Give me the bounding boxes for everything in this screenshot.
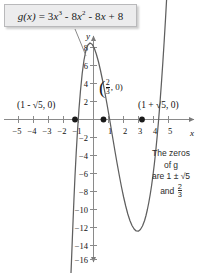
open-paren: ( (99, 81, 105, 94)
svg-text:−8: −8 (79, 187, 88, 197)
fraction-two-thirds: 2 3 (106, 79, 110, 97)
svg-text:−12: −12 (75, 223, 88, 233)
zero-label-left: (1 - √5, 0) (17, 100, 55, 110)
svg-text:−10: −10 (75, 205, 88, 215)
svg-text:2: 2 (84, 97, 88, 107)
svg-text:5: 5 (168, 126, 172, 136)
x-tick-labels: −5 −4 −3 −2 −1 1 2 3 4 5 (12, 126, 172, 136)
svg-text:−16: −16 (75, 255, 88, 265)
svg-text:−4: −4 (79, 151, 89, 161)
svg-text:4: 4 (84, 79, 89, 89)
coordinate-plane: −5 −4 −3 −2 −1 1 2 3 4 5 8 6 4 2 −2 −4 −… (0, 0, 203, 273)
equation-text: g(x) = 3x3 - 8x2 - 8x + 8 (18, 10, 124, 22)
caption-line-3: are 1 ± √5 (140, 171, 202, 183)
zero-label-middle: ( 2 3 , 0) (99, 79, 123, 97)
root-dot-right (139, 117, 145, 123)
svg-text:−4: −4 (27, 126, 37, 136)
svg-text:−6: −6 (79, 169, 88, 179)
zero-label-right: (1 + √5, 0) (138, 100, 179, 110)
caption-fraction-denominator: 3 (178, 190, 182, 199)
zero-label-middle-tail: , 0) (111, 83, 123, 92)
root-dot-middle (101, 117, 107, 123)
caption-line-4: and 2 3 (140, 183, 202, 200)
caption-line-4-prefix: and (160, 185, 174, 195)
equation-callout: g(x) = 3x3 - 8x2 - 8x + 8 (4, 4, 137, 27)
svg-text:−14: −14 (75, 241, 89, 251)
svg-text:−2: −2 (57, 126, 66, 136)
fraction-numerator: 2 (106, 79, 110, 87)
svg-text:−2: −2 (79, 133, 88, 143)
caption-fraction-numerator: 2 (178, 183, 182, 191)
svg-text:−3: −3 (42, 126, 51, 136)
fraction-denominator: 3 (106, 87, 110, 96)
svg-text:6: 6 (84, 61, 88, 71)
y-axis-label: y (86, 31, 90, 41)
root-dot-left (72, 117, 78, 123)
x-axis-label: x (190, 128, 194, 138)
svg-text:3: 3 (138, 126, 142, 136)
svg-text:2: 2 (123, 126, 127, 136)
zeros-caption: The zeros of g are 1 ± √5 and 2 3 (140, 148, 202, 199)
caption-line-2: of g (140, 160, 202, 172)
graph-figure: −5 −4 −3 −2 −1 1 2 3 4 5 8 6 4 2 −2 −4 −… (0, 0, 203, 273)
caption-line-1: The zeros (140, 148, 202, 160)
svg-text:−5: −5 (12, 126, 21, 136)
caption-fraction-two-thirds: 2 3 (178, 183, 182, 200)
